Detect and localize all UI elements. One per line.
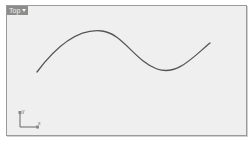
y-axis-label: y xyxy=(22,108,25,114)
world-axes-icon: y x xyxy=(17,110,41,130)
curve[interactable] xyxy=(7,6,246,135)
x-axis-label: x xyxy=(38,120,41,126)
viewport-top[interactable]: Top y x xyxy=(6,5,247,136)
